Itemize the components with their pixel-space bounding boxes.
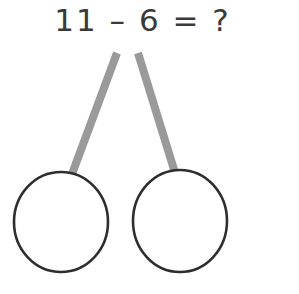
number-bond-diagram	[0, 0, 299, 294]
left-stem	[72, 53, 117, 174]
right-circle[interactable]	[133, 170, 227, 272]
left-circle[interactable]	[14, 172, 108, 272]
right-stem	[138, 53, 176, 176]
worksheet-canvas: 11 – 6 = ?	[0, 0, 299, 294]
